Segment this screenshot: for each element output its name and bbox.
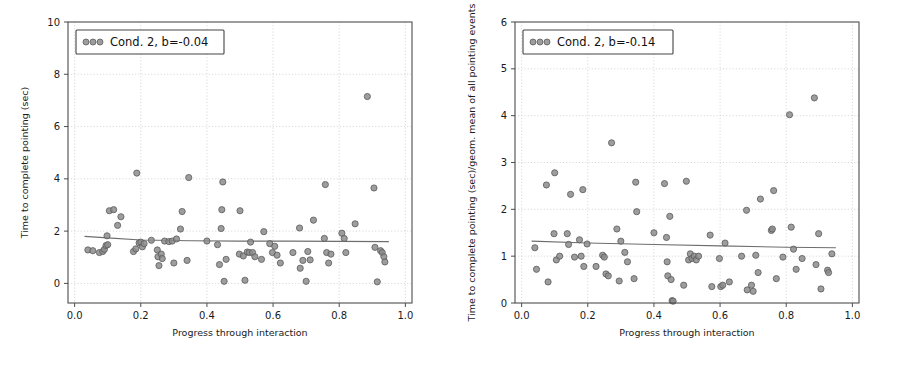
data-point xyxy=(668,276,674,282)
data-point xyxy=(722,240,728,246)
x-tick-label: 0.4 xyxy=(199,310,215,321)
data-point xyxy=(813,262,819,268)
data-point xyxy=(179,208,185,214)
y-tick-label: 2 xyxy=(501,204,507,215)
data-point xyxy=(580,187,586,193)
y-tick-label: 5 xyxy=(501,63,507,74)
data-point xyxy=(218,225,224,231)
x-tick-label: 1.0 xyxy=(844,310,860,321)
y-tick-label: 10 xyxy=(47,17,60,28)
data-point xyxy=(134,170,140,176)
data-point xyxy=(297,265,303,271)
data-point xyxy=(118,214,124,220)
figure-container: 0.00.20.40.60.81.00246810Progress throug… xyxy=(0,0,902,366)
data-point xyxy=(184,257,190,263)
legend-label: Cond. 2, b=-0.04 xyxy=(110,35,208,49)
legend-marker-icon xyxy=(530,39,536,45)
data-point xyxy=(352,221,358,227)
data-point xyxy=(247,239,253,245)
y-tick-label: 0 xyxy=(54,278,60,289)
x-tick-label: 0.6 xyxy=(265,310,281,321)
data-point xyxy=(220,179,226,185)
data-point xyxy=(661,180,667,186)
data-point xyxy=(750,288,756,294)
data-point xyxy=(186,174,192,180)
data-point xyxy=(593,263,599,269)
data-point xyxy=(364,93,370,99)
data-point xyxy=(576,237,582,243)
data-point xyxy=(755,269,761,275)
data-point xyxy=(321,235,327,241)
data-point xyxy=(372,244,378,250)
scatter-plot-right: 0.00.20.40.60.81.00123456Progress throug… xyxy=(451,0,902,366)
data-point xyxy=(681,282,687,288)
data-point xyxy=(793,266,799,272)
data-point xyxy=(581,263,587,269)
data-point xyxy=(115,222,121,228)
data-point xyxy=(237,208,243,214)
y-tick-label: 4 xyxy=(54,173,60,184)
data-point xyxy=(829,251,835,257)
data-point xyxy=(571,254,577,260)
y-tick-label: 1 xyxy=(501,251,507,262)
data-point xyxy=(310,217,316,223)
data-point xyxy=(223,256,229,262)
data-point xyxy=(663,234,669,240)
x-tick-label: 0.2 xyxy=(133,310,149,321)
data-point xyxy=(219,207,225,213)
data-point xyxy=(343,249,349,255)
data-point xyxy=(307,257,313,263)
x-tick-label: 0.2 xyxy=(580,310,596,321)
data-point xyxy=(578,253,584,259)
data-point xyxy=(584,241,590,247)
data-point xyxy=(771,188,777,194)
legend-marker-icon xyxy=(97,39,103,45)
data-point xyxy=(216,261,222,267)
data-point xyxy=(204,238,210,244)
data-point xyxy=(104,233,110,239)
data-point xyxy=(631,276,637,282)
data-point xyxy=(564,231,570,237)
y-tick-label: 0 xyxy=(501,298,507,309)
y-tick-label: 8 xyxy=(54,69,60,80)
data-point xyxy=(303,278,309,284)
y-tick-label: 4 xyxy=(501,110,507,121)
data-point xyxy=(773,276,779,282)
data-point xyxy=(695,253,701,259)
data-point xyxy=(608,140,614,146)
data-point xyxy=(374,279,380,285)
data-point xyxy=(296,225,302,231)
y-tick-label: 2 xyxy=(54,226,60,237)
x-tick-label: 0.0 xyxy=(514,310,530,321)
data-point xyxy=(707,232,713,238)
data-point xyxy=(221,278,227,284)
data-point xyxy=(171,260,177,266)
data-point xyxy=(567,191,573,197)
data-point xyxy=(326,260,332,266)
y-axis-title: Time to complete pointing (sec) xyxy=(19,87,30,240)
data-point xyxy=(242,277,248,283)
scatter-plot-left: 0.00.20.40.60.81.00246810Progress throug… xyxy=(0,0,451,366)
data-point xyxy=(551,231,557,237)
data-point xyxy=(726,279,732,285)
data-point xyxy=(177,226,183,232)
data-point xyxy=(277,260,283,266)
data-point xyxy=(799,255,805,261)
x-tick-label: 0.8 xyxy=(331,310,347,321)
data-point xyxy=(545,279,551,285)
data-point xyxy=(156,263,162,269)
data-point xyxy=(634,209,640,215)
data-point xyxy=(341,235,347,241)
data-point xyxy=(788,224,794,230)
data-point xyxy=(159,255,165,261)
data-point xyxy=(709,284,715,290)
y-tick-label: 6 xyxy=(54,121,60,132)
y-tick-label: 3 xyxy=(501,157,507,168)
x-tick-label: 0.8 xyxy=(778,310,794,321)
data-point xyxy=(790,246,796,252)
data-point xyxy=(173,236,179,242)
data-point xyxy=(565,241,571,247)
data-point xyxy=(258,256,264,262)
data-point xyxy=(148,237,154,243)
data-point xyxy=(141,241,147,247)
